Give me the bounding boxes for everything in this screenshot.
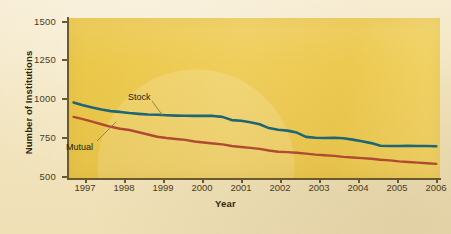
figure-container: 1500 1250 1000 750 500 1997 1998 1999 20… [0,0,451,234]
stock-series-label: Stock [128,92,151,102]
mutual-series-label: Mutual [66,142,93,152]
stock-series-line [74,102,437,146]
series-lines [0,0,451,234]
